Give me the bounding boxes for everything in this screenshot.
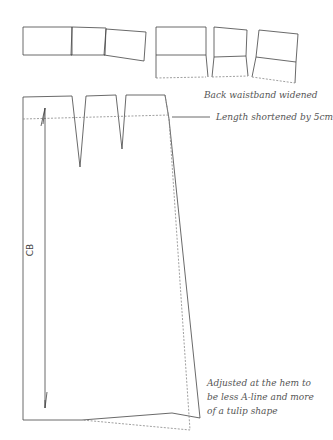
skirt-pattern — [23, 95, 210, 430]
hem-note-line3: of a tulip shape — [207, 404, 278, 418]
cb-label: CB — [25, 244, 35, 256]
front-waistband — [23, 27, 146, 61]
hem-note-line2: be less A-line and more — [207, 390, 314, 404]
back-waistband — [156, 27, 298, 83]
length-note: Length shortened by 5cm — [216, 110, 333, 124]
hem-note-line1: Adjusted at the hem to — [207, 376, 311, 390]
waistband-note: Back waistband widened — [204, 88, 318, 102]
